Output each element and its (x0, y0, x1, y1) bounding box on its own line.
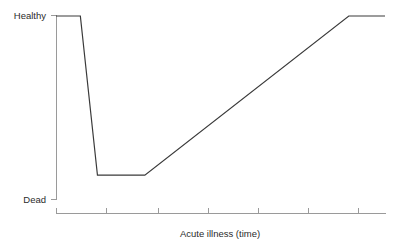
x-axis-title: Acute illness (time) (180, 228, 260, 239)
y-tick-label-healthy: Healthy (14, 10, 46, 21)
chart-canvas: Healthy Dead Acute illness (time) (0, 0, 400, 246)
chart-figure: Healthy Dead Acute illness (time) (0, 0, 400, 246)
y-tick-label-dead: Dead (23, 194, 46, 205)
chart-background (0, 0, 400, 246)
